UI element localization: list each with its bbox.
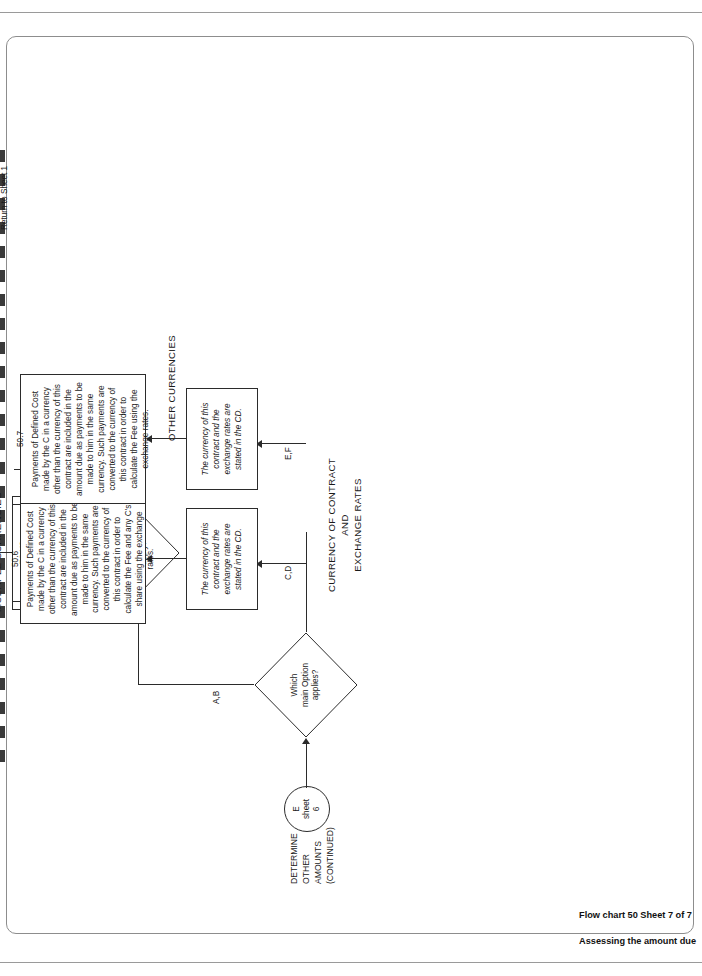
- cd-to-506-line: [152, 558, 186, 559]
- connector-line-entry-to-decision1: [306, 744, 307, 788]
- box-50-7: 50.7 Payments of Defined Cost made by th…: [20, 374, 146, 504]
- bus-line-ab-vertical: [138, 684, 254, 685]
- box-50-6: 50.6 Payments of Defined Cost made by th…: [20, 494, 146, 624]
- entry-connector-line3: 6: [312, 807, 322, 812]
- box-cd-currency-statement: The currency of this contract and the ex…: [186, 508, 258, 610]
- arrow-entry-to-decision1: [302, 738, 310, 744]
- ef-riser-vertical: [262, 443, 306, 444]
- entry-connector-e-sheet-6: E sheet 6: [284, 786, 330, 832]
- flowchart-canvas: DETERMINE OTHER AMOUNTS (CONTINUED) E sh…: [26, 30, 676, 910]
- box-cd-text: The currency of this contract and the ex…: [200, 515, 244, 603]
- figure-caption-line2: Assessing the amount due: [579, 935, 696, 948]
- box-ef-currency-statement: The currency of this contract and the ex…: [186, 388, 258, 490]
- figure-caption-line1: Flow chart 50 Sheet 7 of 7: [579, 909, 696, 922]
- bus-line-cdef-horizontal: [306, 532, 307, 632]
- box-50-7-number: 50.7: [15, 431, 26, 447]
- branch-label-cd: C,D: [284, 566, 293, 580]
- decision1-line2: main Option: [301, 663, 312, 707]
- cd-riser-vertical: [262, 563, 306, 564]
- figure-caption: Flow chart 50 Sheet 7 of 7 Assessing the…: [579, 895, 696, 962]
- branch-label-ab: A,B: [212, 691, 221, 704]
- entry-connector-line2: sheet: [302, 799, 312, 819]
- decision-which-main-option: Which main Option applies?: [254, 632, 358, 738]
- decision1-line1: Which: [290, 674, 301, 697]
- box-50-6-text: Payments of Defined Cost made by the C i…: [25, 502, 156, 616]
- decision1-line3: applies?: [311, 670, 322, 701]
- box-50-7-text: Payments of Defined Cost made by the C i…: [30, 382, 150, 496]
- heading-currency-of-contract: CURRENCY OF CONTRACT AND EXCHANGE RATES: [326, 440, 365, 610]
- ef-to-507-line: [152, 438, 186, 439]
- box-ef-text: The currency of this contract and the ex…: [200, 395, 244, 483]
- branch-label-ef: E,F: [284, 447, 293, 460]
- box-50-6-number: 50.6: [10, 551, 21, 567]
- heading-other-currencies: OTHER CURRENCIES: [166, 322, 179, 454]
- section-label: DETERMINE OTHER AMOUNTS (CONTINUED): [288, 827, 336, 884]
- flowchart-rotation-wrapper: DETERMINE OTHER AMOUNTS (CONTINUED) E sh…: [0, 0, 702, 958]
- terminator-return-caption: Return to Sheet 1: [0, 166, 9, 230]
- entry-connector-line1: E: [292, 806, 302, 811]
- page-rule-bottom: [0, 962, 702, 963]
